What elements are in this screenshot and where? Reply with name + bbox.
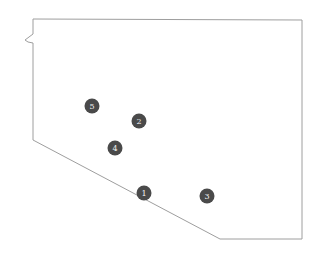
marker-label: 4 (112, 144, 117, 153)
map-marker-1[interactable]: 1 (137, 186, 152, 201)
marker-label: 2 (136, 117, 141, 126)
map-marker-2[interactable]: 2 (132, 114, 147, 129)
marker-label: 3 (204, 192, 209, 201)
map-marker-4[interactable]: 4 (108, 141, 123, 156)
map-marker-3[interactable]: 3 (200, 189, 215, 204)
map-marker-5[interactable]: 5 (85, 99, 100, 114)
marker-label: 5 (89, 102, 94, 111)
map-canvas: 12345 (0, 0, 327, 267)
marker-label: 1 (141, 189, 146, 198)
region-outline (25, 19, 302, 239)
